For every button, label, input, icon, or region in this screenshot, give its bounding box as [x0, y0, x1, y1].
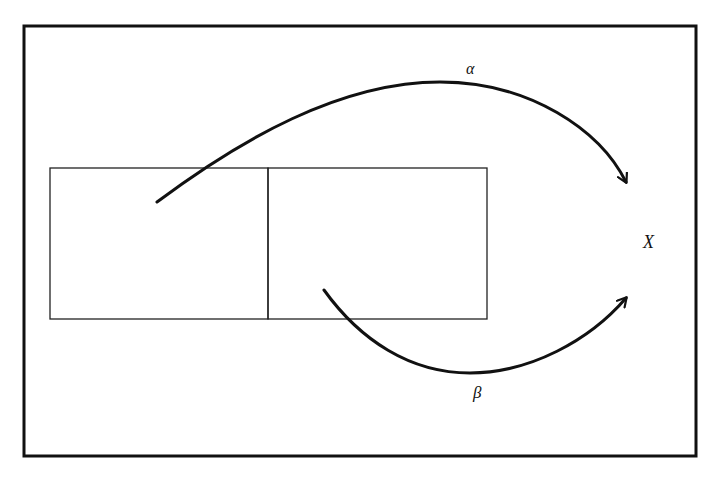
- label-target-x: X: [642, 232, 655, 252]
- arrow-beta: [324, 290, 626, 373]
- diagram-canvas: α β X: [0, 0, 716, 477]
- inner-box-right: [268, 168, 487, 319]
- label-beta: β: [472, 383, 482, 402]
- arrow-alpha: [157, 82, 626, 202]
- inner-box-left: [50, 168, 268, 319]
- outer-frame: [24, 26, 696, 456]
- inner-rectangle: [50, 168, 487, 319]
- label-alpha: α: [466, 60, 475, 77]
